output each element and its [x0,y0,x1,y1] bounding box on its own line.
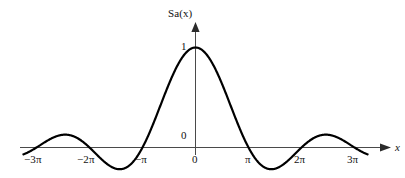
x-tick-label-neg-3pi: −3π [24,154,42,165]
x-tick-label-neg-pi: −π [135,154,147,165]
x-tick-label-2pi: 2π [294,154,305,165]
y-axis-title-base: Sa( [168,7,183,19]
sinc-function-figure: Sa(x) 1 0 x −3π −2π −π 0 π 2π 3π [0,0,405,178]
plot-canvas [0,0,405,178]
y-tick-label-1: 1 [181,41,187,52]
y-axis-title-close: ) [189,7,193,19]
x-tick-label-neg-2pi: −2π [77,154,95,165]
x-axis-title: x [395,142,400,153]
y-axis-arrow-icon [191,22,199,32]
x-tick-label-3pi: 3π [347,154,358,165]
x-tick-label-0: 0 [192,154,198,165]
y-tick-label-0: 0 [181,130,187,141]
x-tick-label-pi: π [245,154,251,165]
x-axis-arrow-icon [380,143,391,151]
y-axis-title: Sa(x) [168,8,192,19]
